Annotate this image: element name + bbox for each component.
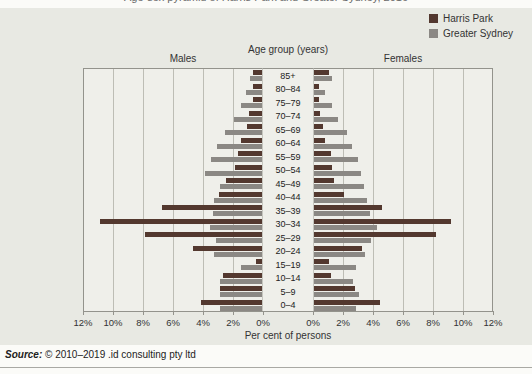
- bar-greater-sydney: [210, 225, 263, 230]
- age-group-label: 75–79: [263, 96, 313, 110]
- tick-mark: [83, 312, 84, 315]
- bar-greater-sydney: [214, 198, 262, 203]
- pyramid-figure: Harris ParkGreater Sydney Age group (yea…: [0, 8, 532, 345]
- male-bar-row: [84, 110, 262, 124]
- age-group-label: 45–49: [263, 177, 313, 191]
- tick-label: 2%: [336, 317, 350, 328]
- chart-title: Age-sex pyramid of Harris Park and Great…: [0, 0, 532, 3]
- bar-harris-park: [314, 286, 355, 291]
- tick-label: 10%: [453, 317, 472, 328]
- age-group-label: 15–19: [263, 258, 313, 272]
- source-prefix: Source:: [5, 349, 42, 360]
- age-group-label: 5–9: [263, 285, 313, 299]
- age-group-label: 60–64: [263, 137, 313, 151]
- tick-label: 0%: [256, 317, 270, 328]
- age-group-label: 40–44: [263, 191, 313, 205]
- bar-greater-sydney: [220, 184, 262, 189]
- bar-greater-sydney: [220, 306, 262, 311]
- tick-mark: [403, 312, 404, 315]
- legend: Harris ParkGreater Sydney: [429, 11, 513, 41]
- males-label: Males: [93, 53, 273, 64]
- tick-label: 8%: [426, 317, 440, 328]
- source-body: © 2010–2019 .id consulting pty ltd: [42, 349, 196, 360]
- female-bar-row: [314, 258, 492, 272]
- bar-greater-sydney: [314, 184, 364, 189]
- male-bar-row: [84, 258, 262, 272]
- legend-label: Harris Park: [443, 13, 493, 24]
- x-axis-title: Per cent of persons: [83, 330, 493, 341]
- tick-mark: [113, 312, 114, 315]
- bar-harris-park: [235, 165, 262, 170]
- females-label: Females: [313, 53, 493, 64]
- female-bar-row: [314, 177, 492, 191]
- female-bar-row: [314, 164, 492, 178]
- bar-harris-park: [314, 219, 451, 224]
- male-bar-row: [84, 191, 262, 205]
- bar-harris-park: [314, 246, 362, 251]
- bar-harris-park: [314, 165, 332, 170]
- tick-mark: [263, 312, 264, 315]
- bar-harris-park: [314, 70, 329, 75]
- bar-harris-park: [314, 178, 334, 183]
- bar-harris-park: [314, 151, 331, 156]
- tick-label: 0%: [306, 317, 320, 328]
- male-bar-row: [84, 96, 262, 110]
- bar-greater-sydney: [314, 130, 347, 135]
- tick-label: 6%: [166, 317, 180, 328]
- tick-mark: [173, 312, 174, 315]
- male-bar-row: [84, 285, 262, 299]
- bar-greater-sydney: [220, 292, 262, 297]
- male-bar-row: [84, 245, 262, 259]
- female-bar-row: [314, 299, 492, 313]
- bar-harris-park: [219, 192, 263, 197]
- tick-label: 10%: [103, 317, 122, 328]
- age-group-label: 85+: [263, 69, 313, 83]
- female-bar-row: [314, 123, 492, 137]
- tick-mark: [373, 312, 374, 315]
- bar-harris-park: [314, 124, 323, 129]
- bar-harris-park: [314, 300, 380, 305]
- male-bar-row: [84, 218, 262, 232]
- bar-greater-sydney: [225, 130, 263, 135]
- male-bar-row: [84, 204, 262, 218]
- clipped-chart-title-strip: Age-sex pyramid of Harris Park and Great…: [0, 0, 532, 8]
- tick-mark: [433, 312, 434, 315]
- bar-greater-sydney: [314, 238, 371, 243]
- age-group-label: 25–29: [263, 231, 313, 245]
- age-group-labels: 85+80–8475–7970–7465–6960–6455–5950–5445…: [263, 68, 313, 311]
- tick-label: 6%: [396, 317, 410, 328]
- bar-greater-sydney: [314, 117, 338, 122]
- tick-mark: [143, 312, 144, 315]
- bar-greater-sydney: [214, 252, 262, 257]
- bar-greater-sydney: [314, 103, 332, 108]
- male-bar-row: [84, 150, 262, 164]
- bar-greater-sydney: [314, 306, 356, 311]
- female-bar-row: [314, 231, 492, 245]
- female-bar-row: [314, 245, 492, 259]
- tick-mark: [313, 312, 314, 315]
- tick-mark: [203, 312, 204, 315]
- female-bar-row: [314, 285, 492, 299]
- bar-greater-sydney: [241, 103, 262, 108]
- bar-harris-park: [241, 138, 262, 143]
- bottom-rule: [0, 367, 532, 368]
- bar-harris-park: [226, 178, 262, 183]
- legend-label: Greater Sydney: [443, 28, 513, 39]
- female-bar-row: [314, 272, 492, 286]
- bar-greater-sydney: [314, 252, 365, 257]
- age-group-label: 70–74: [263, 110, 313, 124]
- age-group-label: 65–69: [263, 123, 313, 137]
- bar-harris-park: [253, 70, 262, 75]
- female-bar-row: [314, 137, 492, 151]
- bar-harris-park: [220, 286, 262, 291]
- legend-swatch-icon: [429, 14, 438, 23]
- age-group-label: 50–54: [263, 164, 313, 178]
- tick-mark: [233, 312, 234, 315]
- bar-greater-sydney: [211, 157, 262, 162]
- male-bar-row: [84, 83, 262, 97]
- male-bar-row: [84, 231, 262, 245]
- tick-label: 2%: [226, 317, 240, 328]
- bar-greater-sydney: [314, 211, 370, 216]
- age-group-label: 35–39: [263, 204, 313, 218]
- bar-greater-sydney: [314, 171, 361, 176]
